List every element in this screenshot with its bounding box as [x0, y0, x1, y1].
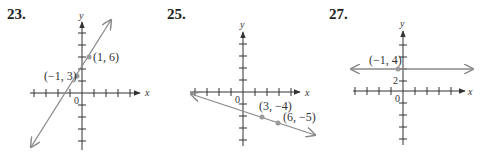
graph-line — [31, 20, 111, 147]
y-axis-label: y — [239, 19, 245, 30]
origin-label: 0 — [235, 94, 240, 105]
y-axis-label: y — [399, 18, 405, 29]
problem-number: 23. — [7, 6, 26, 22]
graph-23: 23. x y 0 (−1, 3) (1, 6) — [7, 6, 150, 150]
graph-27: 27. x y 0 2 (−1, 4) — [329, 6, 473, 145]
graphs-canvas: 23. x y 0 (−1, 3) (1, 6) 25. x y 0 — [0, 0, 495, 159]
origin-label: 0 — [74, 95, 79, 106]
graph-25: 25. x y 0 (3, −4) (6, −5) — [167, 6, 316, 146]
x-axis-label: x — [304, 87, 310, 98]
point-marker — [396, 67, 401, 72]
x-axis-label: x — [144, 87, 150, 98]
point-label: (6, −5) — [283, 110, 316, 124]
point-marker — [276, 121, 281, 126]
problem-number: 27. — [329, 6, 348, 22]
point-label: (−1, 4) — [369, 53, 402, 67]
problem-number: 25. — [167, 6, 186, 22]
point-label: (1, 6) — [93, 50, 119, 64]
y-tick-label: 2 — [393, 75, 398, 86]
origin-label: 0 — [395, 93, 400, 104]
point-label: (−1, 3) — [44, 69, 77, 83]
point-marker — [260, 115, 265, 120]
y-axis-label: y — [78, 10, 84, 21]
point-marker — [87, 55, 92, 60]
x-axis-label: x — [467, 86, 473, 97]
